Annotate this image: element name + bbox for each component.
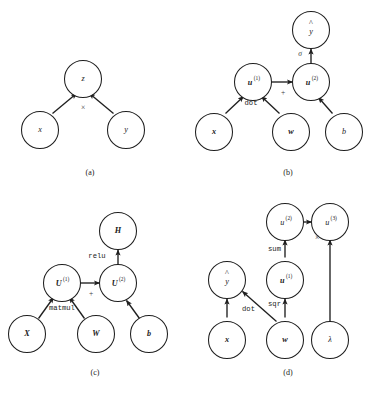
edge-a-x-to-z <box>53 94 77 114</box>
node-d-u2 <box>267 204 304 241</box>
panel-c: H U (1) U (2) X W b matmul + relu (c) <box>9 213 168 378</box>
op-label-c-plus: + <box>88 289 93 298</box>
node-b-u2 <box>293 64 330 101</box>
node-b-u2-superscript: (2) <box>312 75 318 82</box>
edge-b-b-to-u2 <box>319 98 333 114</box>
node-c-U1-superscript: (1) <box>63 276 69 283</box>
node-a-y-label: y <box>123 125 128 134</box>
node-c-U1 <box>44 265 81 302</box>
caption-a: (a) <box>86 168 95 177</box>
node-c-X-label: X <box>23 329 30 338</box>
node-d-u1-superscript: (1) <box>286 273 292 280</box>
node-c-H-label: H <box>114 226 122 235</box>
node-c-b-label: b <box>147 329 151 338</box>
node-d-w-label: w <box>282 335 288 344</box>
op-label-b-dot: dot <box>245 99 258 107</box>
node-d-u3-label: u <box>325 218 329 227</box>
node-d-u1 <box>267 262 304 299</box>
node-c-U2-superscript: (2) <box>119 276 125 283</box>
node-d-u3-superscript: (3) <box>331 215 337 222</box>
node-d-lambda-label: λ <box>327 335 332 344</box>
node-b-b-label: b <box>342 127 346 136</box>
op-label-a-times: × <box>80 103 85 112</box>
op-label-c-relu: relu <box>88 252 105 260</box>
node-b-u1-superscript: (1) <box>254 75 260 82</box>
node-b-u2-label: u <box>306 78 311 87</box>
node-d-u2-superscript: (2) <box>286 215 292 222</box>
node-a-x-label: x <box>37 125 42 134</box>
op-label-d-times: × <box>314 233 319 242</box>
caption-c: (c) <box>91 368 100 377</box>
node-d-x-label: x <box>224 335 229 344</box>
node-d-u2-label: u <box>280 218 284 227</box>
edge-b-x-to-u1 <box>226 97 244 114</box>
panel-a: z x y × (a) <box>22 61 145 178</box>
op-label-d-dot: dot <box>242 305 255 313</box>
caption-d: (d) <box>283 368 293 377</box>
node-d-u1-label: u <box>280 276 285 285</box>
op-label-b-plus: + <box>280 88 285 97</box>
caption-b: (b) <box>283 168 293 177</box>
edge-b-w-to-u1 <box>262 97 280 114</box>
op-label-d-sum: sum <box>268 245 281 253</box>
op-label-d-sqr: sqr <box>268 300 281 308</box>
computational-graph-canvas: z x y × (a) ^ y u (1) u (2) x w b dot + … <box>0 0 376 396</box>
node-b-yhat-label: y <box>308 27 313 36</box>
node-b-x-label: x <box>211 127 216 136</box>
op-label-b-sigma: σ <box>298 49 302 58</box>
edge-c-b-to-U2 <box>127 301 140 319</box>
op-label-c-matmul: matmul <box>49 304 75 312</box>
node-b-u1 <box>235 64 272 101</box>
edge-a-y-to-z <box>90 94 114 114</box>
figure-root: z x y × (a) ^ y u (1) u (2) x w b dot + … <box>0 0 376 396</box>
panel-d: u (2) u (3) ^ y u (1) x w λ dot sqr sum … <box>209 204 349 378</box>
node-c-W-label: W <box>92 329 100 338</box>
node-b-u1-label: u <box>248 78 253 87</box>
node-c-U2 <box>100 265 137 302</box>
node-b-w-label: w <box>288 127 294 136</box>
node-d-yhat-label: y <box>224 277 229 286</box>
panel-b: ^ y u (1) u (2) x w b dot + σ (b) <box>196 12 363 178</box>
